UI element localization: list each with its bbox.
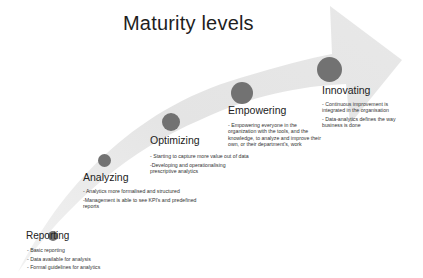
stage-title-innovating: Innovating [322,84,370,96]
stage-bullets-analyzing: - Analytics more formalised and structur… [83,188,201,212]
stage-title-optimizing: Optimizing [150,134,200,146]
bullet: - Data available for analysis [27,256,127,262]
stage-bullets-innovating: - Continuous improvement is integrated i… [322,101,412,131]
stage-marker-innovating [317,57,342,82]
bullet: - Continuous improvement is integrated i… [322,101,412,114]
bullet: - Formal guidelines for analytics [27,264,127,270]
stage-title-analyzing: Analyzing [83,171,129,183]
bullet: -Management is able to see KPI's and pre… [83,197,201,210]
bullet: - Empowering everyone in the organizatio… [228,122,324,148]
bullet: - Basic reporting [27,247,127,253]
stage-marker-analyzing [98,154,111,167]
bullet: -Developing and operationalising prescri… [150,162,250,175]
stage-bullets-optimizing: - Starting to capture more value out of … [150,153,250,177]
stage-bullets-empowering: - Empowering everyone in the organizatio… [228,122,324,150]
stage-title-reporting: Reporting [26,230,69,241]
stage-title-empowering: Empowering [228,104,286,116]
stage-marker-optimizing [162,113,180,131]
bullet: - Analytics more formalised and structur… [83,188,201,194]
bullet: - Data-analytics defines the way busines… [322,116,412,129]
stage-marker-empowering [231,82,253,104]
stage-bullets-reporting: - Basic reporting - Data available for a… [27,247,127,273]
page-title: Maturity levels [123,12,254,35]
bullet: - Starting to capture more value out of … [150,153,250,159]
